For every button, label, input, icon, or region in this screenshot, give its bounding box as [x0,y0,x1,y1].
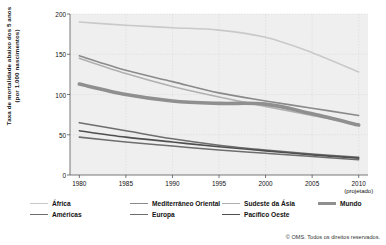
legend-label: África [52,200,71,207]
legend-item[interactable]: Américas [30,211,82,218]
copyright-notice: © OMS. Todos os direitos reservados. [286,234,380,240]
legend-label: Pacífico Oeste [244,211,289,218]
legend-label: Américas [52,211,82,218]
x-tick-label: 1980 [72,180,86,188]
legend-swatch [318,202,336,205]
legend-swatch [222,203,240,204]
legend-label: Mediterrâneo Oriental [152,200,220,207]
x-tick-label: 2000 [258,180,272,188]
legend-item[interactable]: Pacífico Oeste [222,211,289,218]
legend-item[interactable]: Mundo [318,200,362,207]
x-tick-label: 1990 [165,180,179,188]
chart-container: Taxa de mortalidade abaixo dos 5 anos (p… [0,0,386,245]
legend-label: Mundo [340,200,362,207]
chart-legend: ÁfricaMediterrâneo OrientalSudeste da Ás… [0,198,386,228]
legend-item[interactable]: Europa [130,211,175,218]
x-tick-label: 1985 [119,180,133,188]
legend-swatch [30,214,48,215]
legend-item[interactable]: África [30,200,71,207]
x-tick-label: 1995 [212,180,226,188]
legend-label: Sudeste da Ásia [244,200,295,207]
legend-swatch [30,203,48,204]
legend-item[interactable]: Sudeste da Ásia [222,200,295,207]
legend-swatch [130,214,148,215]
x-tick-sublabel: (projetado) [344,188,373,196]
legend-swatch [130,203,148,204]
legend-label: Europa [152,211,175,218]
x-tick-label: 2005 [305,180,319,188]
legend-item[interactable]: Mediterrâneo Oriental [130,200,220,207]
legend-swatch [222,214,240,215]
x-tick-label: 2010(projetado) [344,180,373,195]
